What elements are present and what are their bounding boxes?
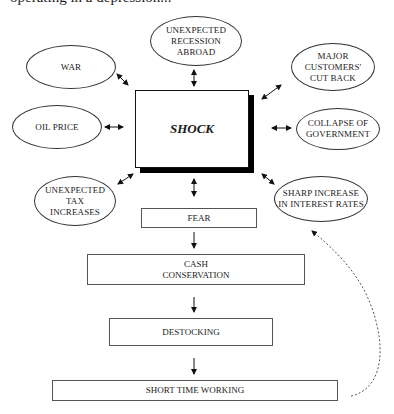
cause-major-customers: MAJOR CUSTOMERS' CUT BACK — [291, 43, 375, 91]
cash-conservation-box: CASH CONSERVATION — [87, 254, 305, 285]
chain-label: SHORT TIME WORKING — [146, 385, 244, 396]
cause-collapse-of-government: COLLAPSE OF GOVERNMENT — [296, 108, 380, 150]
feedback-dashed-arrow-icon — [312, 231, 380, 396]
short-time-working-box: SHORT TIME WORKING — [52, 380, 338, 401]
chain-label: DESTOCKING — [162, 327, 219, 338]
cause-label: MAJOR CUSTOMERS' CUT BACK — [305, 51, 361, 84]
fear-box: FEAR — [141, 208, 257, 228]
cause-war: WAR — [26, 45, 116, 89]
destocking-box: DESTOCKING — [109, 318, 273, 346]
cause-label: OIL PRICE — [35, 122, 78, 133]
cause-label: WAR — [61, 62, 81, 73]
cause-oil-price: OIL PRICE — [12, 105, 102, 149]
chain-label: CASH CONSERVATION — [162, 259, 229, 281]
shock-box: SHOCK — [135, 90, 249, 168]
cause-unexpected-tax: UNEXPECTED TAX INCREASES — [34, 176, 116, 226]
cause-interest-rates: SHARP INCREASE IN INTEREST RATES — [274, 176, 368, 222]
cause-label: COLLAPSE OF GOVERNMENT — [306, 118, 370, 140]
cause-label: UNEXPECTED RECESSION ABROAD — [166, 25, 226, 58]
cause-label: SHARP INCREASE IN INTEREST RATES — [278, 188, 364, 210]
cause-recession-abroad: UNEXPECTED RECESSION ABROAD — [150, 16, 242, 66]
clipped-header-text: operating in a depression... — [10, 0, 172, 6]
double-arrow-icon — [262, 174, 274, 184]
double-arrow-icon — [118, 174, 133, 184]
shock-label: SHOCK — [170, 121, 214, 137]
chain-label: FEAR — [187, 213, 210, 224]
cause-label: UNEXPECTED TAX INCREASES — [45, 185, 105, 218]
double-arrow-icon — [117, 74, 128, 85]
double-arrow-icon — [262, 85, 281, 99]
